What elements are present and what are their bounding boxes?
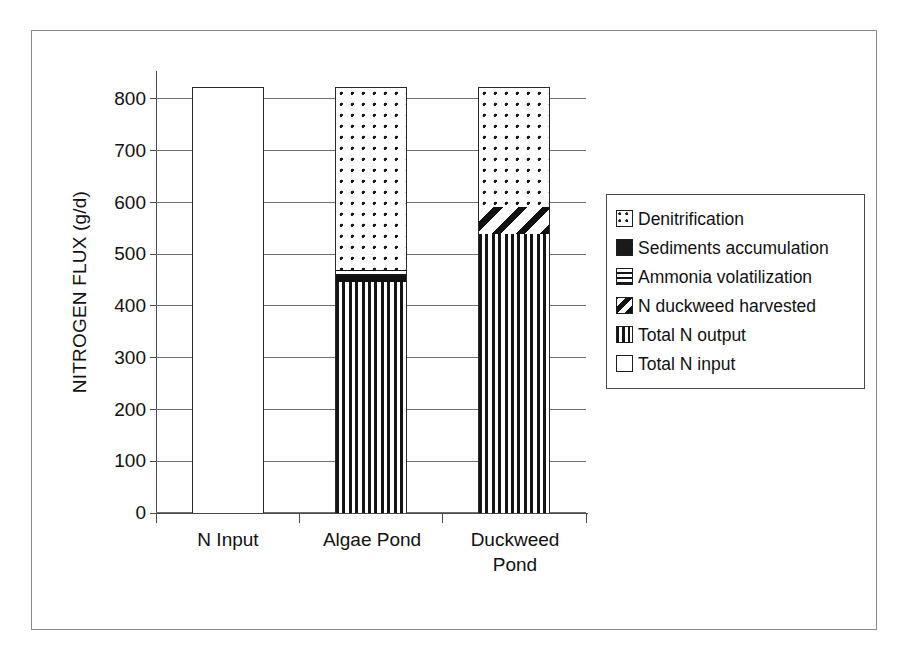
- bar-segment-total-n-input: [193, 87, 263, 513]
- x-axis-label-line1: Algae Pond: [297, 527, 447, 552]
- plot-area: [156, 78, 586, 513]
- x-tick-separator-end: [586, 513, 587, 523]
- x-axis-label-algae-pond: Algae Pond: [297, 527, 447, 552]
- chart-legend: Denitrification Sediments accumulation A…: [606, 194, 865, 389]
- legend-swatch-diagonal-hatch-icon: [616, 297, 633, 314]
- y-tick-label-700: 700: [76, 141, 146, 160]
- legend-swatch-vertical-lines-icon: [616, 326, 633, 343]
- legend-item-total-n-input: Total N input: [616, 349, 856, 378]
- x-tick-separator-start: [156, 513, 157, 523]
- bar-segment-total-n-output: [479, 234, 549, 513]
- x-axis-label-line1: N Input: [153, 527, 303, 552]
- y-tick-label-300: 300: [76, 348, 146, 367]
- x-axis-label-n-input: N Input: [153, 527, 303, 552]
- x-axis-label-line2: Pond: [440, 552, 590, 577]
- bar-segment-sediments-accumulation: [336, 276, 406, 282]
- x-tick-separator-1: [299, 513, 300, 523]
- y-tick-label-500: 500: [76, 244, 146, 263]
- bar-n-input: [192, 87, 264, 513]
- legend-item-n-duckweed-harvested: N duckweed harvested: [616, 291, 856, 320]
- bar-segment-ammonia-volatilization: [336, 270, 406, 276]
- figure-frame: NITROGEN FLUX (g/d) 800 700 600 500 400 …: [31, 30, 877, 630]
- y-tick-label-800: 800: [76, 89, 146, 108]
- legend-item-total-n-output: Total N output: [616, 320, 856, 349]
- legend-item-sediments-accumulation: Sediments accumulation: [616, 233, 856, 262]
- bar-segment-total-n-output: [336, 282, 406, 513]
- legend-swatch-solid-icon: [616, 239, 633, 256]
- x-axis-label-duckweed-pond: Duckweed Pond: [440, 527, 590, 577]
- legend-label: Total N input: [638, 355, 735, 373]
- bar-segment-n-duckweed-harvested: [479, 207, 549, 234]
- bar-algae-pond: [335, 87, 407, 513]
- y-tick-label-100: 100: [76, 451, 146, 470]
- y-tick-label-600: 600: [76, 193, 146, 212]
- legend-swatch-dots-icon: [616, 210, 633, 227]
- legend-item-denitrification: Denitrification: [616, 204, 856, 233]
- legend-label: Total N output: [638, 326, 746, 344]
- legend-swatch-horizontal-lines-icon: [616, 268, 633, 285]
- y-axis-tick-labels: 800 700 600 500 400 300 200 100 0: [68, 31, 146, 631]
- bar-chart: NITROGEN FLUX (g/d) 800 700 600 500 400 …: [32, 31, 878, 631]
- y-tick-label-400: 400: [76, 296, 146, 315]
- x-tick-separator-2: [442, 513, 443, 523]
- legend-label: Ammonia volatilization: [638, 268, 812, 286]
- x-axis-line: [156, 513, 588, 514]
- legend-label: Denitrification: [638, 210, 744, 228]
- y-tick-label-200: 200: [76, 400, 146, 419]
- bar-segment-denitrification: [336, 87, 406, 270]
- bar-segment-denitrification: [479, 87, 549, 207]
- bar-duckweed-pond: [478, 87, 550, 513]
- y-tick-label-0: 0: [76, 503, 146, 522]
- legend-label: N duckweed harvested: [638, 297, 816, 315]
- legend-swatch-empty-icon: [616, 355, 633, 372]
- x-axis-label-line1: Duckweed: [440, 527, 590, 552]
- legend-label: Sediments accumulation: [638, 239, 829, 257]
- legend-item-ammonia-volatilization: Ammonia volatilization: [616, 262, 856, 291]
